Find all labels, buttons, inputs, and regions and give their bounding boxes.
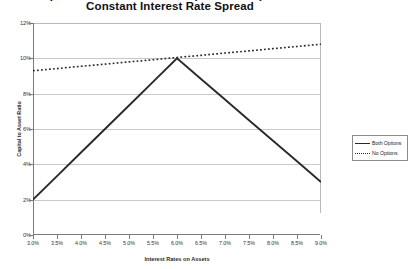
x-axis-tick bbox=[321, 235, 322, 239]
x-axis-tick-label: 8.5% bbox=[291, 240, 303, 246]
x-axis-tick bbox=[153, 235, 154, 239]
chart-title-line-2: Constant Interest Rate Spread bbox=[0, 0, 340, 12]
legend-item[interactable]: No Options bbox=[355, 148, 405, 158]
legend-item-label: No Options bbox=[372, 148, 397, 158]
chart-container: Capital to Asset Ratio with Options Comp… bbox=[0, 0, 408, 269]
x-axis-tick bbox=[225, 235, 226, 239]
x-axis-tick-label: 4.0% bbox=[75, 240, 87, 246]
x-axis-tick bbox=[273, 235, 274, 239]
x-axis-tick-label: 4.5% bbox=[99, 240, 111, 246]
x-axis-tick-label: 5.5% bbox=[147, 240, 159, 246]
legend-item-label: Both Options bbox=[372, 138, 401, 148]
series-line-both-options bbox=[33, 58, 321, 199]
x-axis-tick-label: 3.0% bbox=[27, 240, 39, 246]
x-axis-ticks bbox=[33, 235, 321, 239]
x-axis-tick-label: 6.0% bbox=[171, 240, 183, 246]
x-axis-tick-label: 9.0% bbox=[315, 240, 327, 246]
x-axis-tick bbox=[249, 235, 250, 239]
y-axis-title: Capital to Asset Ratio bbox=[16, 74, 22, 184]
x-axis-tick bbox=[177, 235, 178, 239]
x-axis-tick-label: 7.0% bbox=[219, 240, 231, 246]
x-axis-tick bbox=[201, 235, 202, 239]
series-plot bbox=[33, 23, 321, 235]
x-axis-tick-label: 6.5% bbox=[195, 240, 207, 246]
x-axis-tick bbox=[81, 235, 82, 239]
y-axis-title-wrapper: Capital to Asset Ratio bbox=[0, 23, 12, 235]
x-axis-tick-label: 7.5% bbox=[243, 240, 255, 246]
chart-legend[interactable]: Both OptionsNo Options bbox=[352, 135, 408, 161]
x-axis-tick-label: 3.5% bbox=[51, 240, 63, 246]
x-axis-title: Interest Rates on Assets bbox=[33, 256, 321, 262]
legend-item[interactable]: Both Options bbox=[355, 138, 405, 148]
x-axis-tick bbox=[129, 235, 130, 239]
legend-key-solid-icon bbox=[355, 139, 370, 147]
x-axis-tick-label: 8.0% bbox=[267, 240, 279, 246]
x-axis-tick bbox=[33, 235, 34, 239]
legend-key-dotted-icon bbox=[355, 149, 370, 157]
x-axis-tick bbox=[105, 235, 106, 239]
x-axis-tick-label: 5.0% bbox=[123, 240, 135, 246]
chart-title: Capital to Asset Ratio with Options Comp… bbox=[0, 0, 340, 16]
x-axis-tick-labels: 3.0%3.5%4.0%4.5%5.0%5.5%6.0%6.5%7.0%7.5%… bbox=[33, 240, 321, 250]
x-axis-tick bbox=[297, 235, 298, 239]
x-axis-tick bbox=[57, 235, 58, 239]
